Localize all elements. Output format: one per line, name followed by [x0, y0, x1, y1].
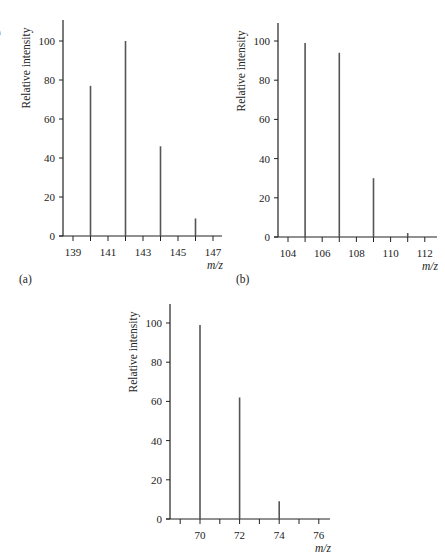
y-tick-label: 80 [44, 74, 56, 86]
x-axis-title: m/z [422, 260, 439, 272]
y-axis-title: Relative intensity [235, 30, 248, 111]
y-tick-label: 80 [259, 74, 271, 86]
y-tick-label: 80 [151, 356, 163, 368]
panel-label-a: (a) [19, 273, 32, 285]
x-tick-label: 74 [274, 529, 286, 541]
x-tick-label: 106 [314, 247, 331, 259]
x-axis-title: m/z [315, 542, 332, 554]
x-tick-label: 139 [65, 246, 82, 258]
spectra-figure: 020406080100139141143145147Relative inte… [0, 0, 445, 554]
y-tick-label: 40 [44, 152, 56, 164]
x-tick-label: 110 [383, 247, 400, 259]
x-tick-label: 112 [417, 247, 433, 259]
chart-a: 020406080100139141143145147Relative inte… [20, 20, 224, 271]
y-tick-label: 0 [50, 230, 56, 242]
panel-label-b: (b) [236, 273, 249, 285]
x-tick-label: 143 [135, 246, 152, 258]
x-tick-label: 72 [234, 529, 245, 541]
y-tick-label: 20 [44, 191, 56, 203]
x-tick-label: 70 [195, 529, 207, 541]
y-tick-label: 40 [259, 153, 271, 165]
y-tick-label: 0 [265, 231, 271, 243]
chart-c: 02040608010070727476Relative intensitym/… [127, 304, 332, 554]
y-axis-title: Relative intensity [127, 311, 140, 392]
x-tick-label: 104 [280, 247, 297, 259]
x-tick-label: 76 [313, 529, 325, 541]
y-axis-title: Relative intensity [20, 27, 33, 108]
y-tick-label: 100 [254, 35, 271, 47]
y-tick-label: 60 [44, 113, 56, 125]
chart-b: 020406080100104106108110112Relative inte… [235, 23, 439, 272]
y-tick-label: 100 [39, 35, 56, 47]
y-tick-label: 20 [151, 474, 163, 486]
stray-mark: a [0, 27, 1, 37]
x-tick-label: 145 [170, 246, 187, 258]
x-tick-label: 108 [348, 247, 365, 259]
y-tick-label: 60 [259, 113, 271, 125]
x-tick-label: 141 [100, 246, 117, 258]
y-tick-label: 60 [151, 395, 163, 407]
y-tick-label: 0 [157, 513, 163, 525]
x-tick-label: 147 [205, 246, 222, 258]
y-tick-label: 40 [151, 435, 163, 447]
y-tick-label: 100 [146, 317, 163, 329]
y-tick-label: 20 [259, 192, 271, 204]
x-axis-title: m/z [207, 259, 224, 271]
